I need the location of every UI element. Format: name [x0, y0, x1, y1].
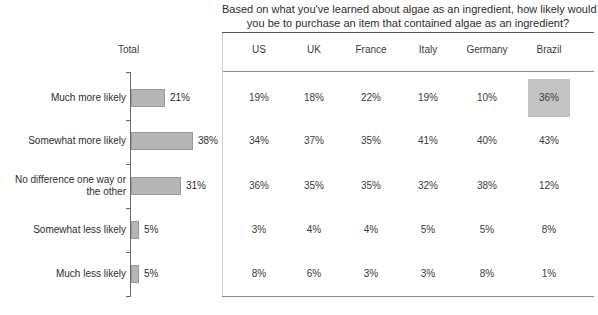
- slide-canvas: Based on what you've learned about algae…: [0, 0, 598, 315]
- table-column-header-germany: Germany: [461, 44, 513, 55]
- table-cell: 3%: [345, 268, 397, 279]
- table-cell: 40%: [461, 135, 513, 146]
- table-cell: 10%: [461, 92, 513, 103]
- chart-category-label-line: No difference one way or: [0, 174, 126, 186]
- chart-category-label: Somewhat more likely: [0, 135, 126, 147]
- table-cell: 19%: [402, 92, 454, 103]
- table-cell: 5%: [461, 224, 513, 235]
- chart-bar: [131, 221, 139, 239]
- table-cell: 8%: [523, 224, 575, 235]
- chart-bar-value-label: 38%: [198, 135, 218, 146]
- chart-table-divider: [222, 33, 223, 296]
- table-column-header-brazil: Brazil: [523, 44, 575, 55]
- table-cell: 37%: [288, 135, 340, 146]
- chart-bar: [131, 132, 193, 150]
- axis-tick-1: [126, 120, 131, 121]
- chart-category-label: Somewhat less likely: [0, 224, 126, 236]
- chart-bar-value-label: 5%: [144, 268, 158, 279]
- axis-tick-4: [126, 252, 131, 253]
- table-cell: 5%: [402, 224, 454, 235]
- axis-tick-3: [126, 208, 131, 209]
- table-cell: 35%: [345, 135, 397, 146]
- chart-category-label: Much less likely: [0, 268, 126, 280]
- chart-category-label-line: Much more likely: [0, 92, 126, 104]
- chart-category-label: No difference one way orthe other: [0, 174, 126, 198]
- page-title-line-1: Based on what you've learned about algae…: [222, 2, 594, 16]
- chart-bar-value-label: 21%: [170, 92, 190, 103]
- table-cell: 36%: [528, 79, 570, 117]
- table-column-header-uk: UK: [288, 44, 340, 55]
- table-column-header-italy: Italy: [402, 44, 454, 55]
- table-cell: 6%: [288, 268, 340, 279]
- table-header-rule: [222, 71, 594, 72]
- table-cell: 38%: [461, 180, 513, 191]
- chart-bar: [131, 177, 181, 195]
- table-bottom-rule: [222, 296, 594, 297]
- table-cell: 8%: [233, 268, 285, 279]
- chart-bar: [131, 89, 165, 107]
- axis-tick-2: [126, 164, 131, 165]
- table-cell: 35%: [345, 180, 397, 191]
- axis-tick-5: [126, 296, 131, 297]
- chart-bar: [131, 265, 139, 283]
- table-cell: 3%: [233, 224, 285, 235]
- table-cell: 36%: [233, 180, 285, 191]
- table-cell: 32%: [402, 180, 454, 191]
- table-cell: 8%: [461, 268, 513, 279]
- chart-category-label: Much more likely: [0, 92, 126, 104]
- chart-bar-value-label: 31%: [186, 180, 206, 191]
- table-cell: 34%: [233, 135, 285, 146]
- total-column-header: Total: [118, 44, 178, 55]
- table-cell: 12%: [523, 180, 575, 191]
- table-column-header-france: France: [345, 44, 397, 55]
- table-cell: 35%: [288, 180, 340, 191]
- table-cell: 3%: [402, 268, 454, 279]
- axis-tick-0: [126, 72, 131, 73]
- table-cell: 4%: [345, 224, 397, 235]
- table-cell: 1%: [523, 268, 575, 279]
- table-cell: 41%: [402, 135, 454, 146]
- table-cell: 22%: [345, 92, 397, 103]
- table-top-rule: [222, 32, 594, 33]
- page-title: Based on what you've learned about algae…: [222, 2, 594, 30]
- chart-category-label-line: Somewhat more likely: [0, 135, 126, 147]
- chart-category-label-line: Somewhat less likely: [0, 224, 126, 236]
- table-cell: 19%: [233, 92, 285, 103]
- chart-bar-value-label: 5%: [144, 224, 158, 235]
- chart-category-label-line: Much less likely: [0, 268, 126, 280]
- page-title-line-2: you be to purchase an item that containe…: [222, 16, 594, 30]
- table-cell: 4%: [288, 224, 340, 235]
- table-cell: 18%: [288, 92, 340, 103]
- chart-category-label-line: the other: [0, 186, 126, 198]
- table-column-header-us: US: [233, 44, 285, 55]
- table-cell: 43%: [523, 135, 575, 146]
